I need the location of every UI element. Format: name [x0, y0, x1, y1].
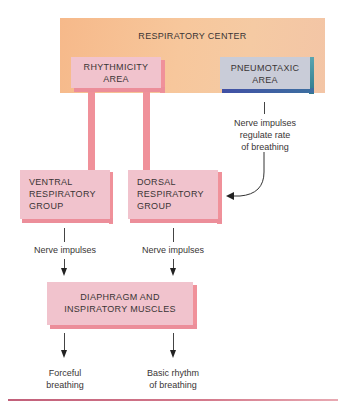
ventral-note: Nerve impulses: [20, 244, 110, 256]
ventral-label-2: RESPIRATORY: [29, 188, 110, 200]
dorsal-arrowhead-icon: [170, 268, 176, 276]
outcome-left-1: Forceful: [20, 367, 110, 379]
pneumotaxic-label-2: AREA: [220, 74, 310, 86]
outcome-left-2: breathing: [20, 379, 110, 391]
respiratory-center-label: RESPIRATORY CENTER: [60, 31, 325, 41]
dorsal-group-box: DORSAL RESPIRATORY GROUP: [128, 170, 218, 219]
ventral-connector-bar: [88, 92, 95, 172]
pneumotaxic-area-box: PNEUMOTAXIC AREA: [220, 57, 310, 89]
dorsal-down-line: [173, 228, 174, 242]
muscles-label-2: INSPIRATORY MUSCLES: [47, 303, 193, 315]
outcome-right-2: of breathing: [128, 379, 218, 391]
left-outcome-arrowhead-icon: [61, 350, 67, 358]
muscles-box: DIAPHRAGM AND INSPIRATORY MUSCLES: [47, 282, 193, 325]
pneumotaxic-note: Nerve impulses regulate rate of breathin…: [222, 117, 308, 153]
ventral-down-line: [64, 228, 65, 242]
ventral-label-1: VENTRAL: [29, 176, 110, 188]
muscles-label-1: DIAPHRAGM AND: [47, 282, 193, 303]
dorsal-note: Nerve impulses: [128, 244, 218, 256]
curved-arrow-icon: [220, 150, 270, 200]
rhythmicity-label-2: AREA: [71, 73, 161, 85]
pneumotaxic-label-1: PNEUMOTAXIC: [220, 57, 310, 74]
dorsal-connector-bar: [143, 92, 150, 172]
pneumotaxic-down-line: [264, 102, 265, 114]
rhythmicity-label-1: RHYTHMICITY: [71, 57, 161, 73]
ventral-label-3: GROUP: [29, 200, 110, 212]
outcome-right-1: Basic rhythm: [128, 367, 218, 379]
outcome-left: Forceful breathing: [20, 367, 110, 391]
ventral-group-box: VENTRAL RESPIRATORY GROUP: [20, 170, 110, 219]
outcome-right: Basic rhythm of breathing: [128, 367, 218, 391]
right-outcome-arrowhead-icon: [170, 350, 176, 358]
pneumotaxic-note-1: Nerve impulses: [222, 117, 308, 129]
dorsal-label-2: RESPIRATORY: [137, 188, 218, 200]
pneumotaxic-note-2: regulate rate: [222, 129, 308, 141]
bottom-rule: [8, 399, 338, 401]
dorsal-label-3: GROUP: [137, 200, 218, 212]
dorsal-label-1: DORSAL: [137, 176, 218, 188]
ventral-arrowhead-icon: [61, 268, 67, 276]
rhythmicity-area-box: RHYTHMICITY AREA: [71, 57, 161, 88]
